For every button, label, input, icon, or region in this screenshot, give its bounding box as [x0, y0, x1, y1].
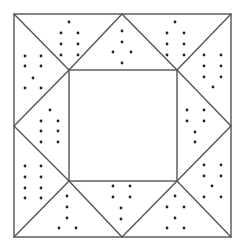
dot-marker: [203, 175, 206, 178]
dot-marker: [112, 185, 115, 188]
triangle-edge-line: [14, 70, 69, 126]
dot-marker: [40, 65, 43, 68]
triangle-edge-line: [69, 14, 122, 70]
dot-marker: [203, 54, 206, 57]
dot-marker: [183, 227, 186, 230]
dot-marker: [129, 185, 132, 188]
dot-marker: [57, 141, 60, 144]
dot-marker: [75, 227, 78, 230]
dot-marker: [166, 227, 169, 230]
dot-marker: [57, 120, 60, 123]
dot-marker: [203, 120, 206, 123]
dot-marker: [60, 43, 63, 46]
dot-marker: [32, 77, 35, 80]
dot-marker: [66, 195, 69, 198]
dot-marker: [220, 76, 223, 79]
dot-marker: [203, 196, 206, 199]
dot-marker: [129, 196, 132, 199]
dot-marker: [203, 65, 206, 68]
quilt-pattern-diagram: [0, 0, 245, 252]
dot-marker: [183, 32, 186, 35]
dot-marker: [203, 109, 206, 112]
triangle-edge-line: [14, 14, 69, 70]
dot-marker: [166, 43, 169, 46]
dot-marker: [40, 87, 43, 90]
dot-marker: [58, 227, 61, 230]
dot-marker: [212, 86, 215, 89]
dot-marker: [121, 41, 124, 44]
dot-marker: [68, 21, 71, 24]
triangle-edge-line: [122, 14, 177, 70]
dot-marker: [130, 51, 133, 54]
dot-marker: [77, 43, 80, 46]
dot-marker: [57, 130, 60, 133]
dot-marker: [24, 65, 27, 68]
dot-marker: [66, 217, 69, 220]
dot-marker: [40, 120, 43, 123]
dot-marker: [174, 21, 177, 24]
dot-marker: [24, 87, 27, 90]
dot-marker: [66, 206, 69, 209]
dot-marker: [183, 43, 186, 46]
dot-marker: [40, 55, 43, 58]
dot-marker: [194, 131, 197, 134]
dot-marker: [194, 141, 197, 144]
dot-marker: [183, 54, 186, 57]
dot-marker: [112, 196, 115, 199]
dot-marker: [24, 165, 27, 168]
dot-marker: [174, 217, 177, 220]
dot-marker: [60, 32, 63, 35]
triangle-edge-line: [122, 181, 177, 237]
dot-marker: [174, 195, 177, 198]
dot-marker: [24, 187, 27, 190]
triangle-edge-line: [177, 70, 231, 126]
dot-marker: [120, 207, 123, 210]
triangle-edge-line: [177, 126, 231, 181]
dot-marker: [77, 32, 80, 35]
dot-marker: [120, 218, 123, 221]
dot-marker: [211, 185, 214, 188]
inner-square: [69, 70, 177, 181]
dot-marker: [166, 32, 169, 35]
dot-marker: [166, 54, 169, 57]
dot-marker: [121, 62, 124, 65]
dot-marker: [49, 109, 52, 112]
dot-marker: [60, 54, 63, 57]
dot-marker: [24, 55, 27, 58]
dot-marker: [121, 30, 124, 33]
dot-marker: [220, 175, 223, 178]
dot-marker: [112, 51, 115, 54]
triangle-lines: [14, 14, 231, 237]
dot-marker: [40, 141, 43, 144]
dot-marker: [220, 54, 223, 57]
dot-marker: [186, 109, 189, 112]
dot-marker: [40, 130, 43, 133]
dot-marker: [220, 196, 223, 199]
triangle-edge-line: [14, 181, 69, 237]
dot-marker: [203, 164, 206, 167]
dot-marker: [220, 164, 223, 167]
dot-marker: [203, 76, 206, 79]
dot-marker: [40, 165, 43, 168]
dot-marker: [40, 197, 43, 200]
dot-marker: [40, 187, 43, 190]
dot-marker: [77, 54, 80, 57]
triangle-edge-line: [177, 14, 231, 70]
dot-marker: [24, 176, 27, 179]
dot-marker: [24, 197, 27, 200]
dot-marker: [183, 206, 186, 209]
dot-marker: [220, 65, 223, 68]
dot-marker: [186, 120, 189, 123]
dot-marker: [166, 206, 169, 209]
triangle-edge-line: [14, 126, 69, 181]
dot-marker: [40, 176, 43, 179]
